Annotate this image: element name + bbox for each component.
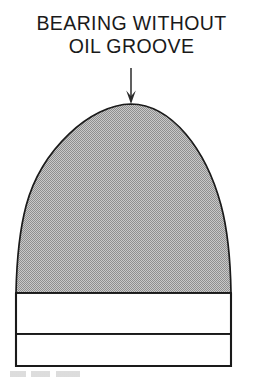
down-arrow-icon xyxy=(126,68,136,104)
bearing-cross-section-drawing xyxy=(0,0,263,377)
bearing-dome xyxy=(16,104,231,293)
scan-residue-artifact xyxy=(10,371,94,377)
bearing-body-upper xyxy=(16,293,231,334)
bearing-body-lower xyxy=(16,334,231,366)
bearing-figure: BEARING WITHOUT OIL GROOVE xyxy=(0,0,263,377)
